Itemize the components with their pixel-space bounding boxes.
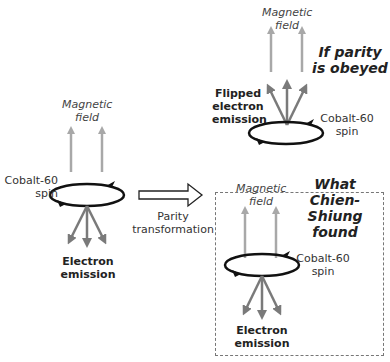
chien-shiung-found-title: What Chien-Shiung found [290, 176, 380, 240]
bottom-field-label: Magnetic field [236, 182, 286, 208]
top-magnetic-field-arrows [271, 30, 302, 72]
left-field-label: Magnetic field [62, 98, 112, 124]
bottom-spin-label: Cobalt-60 spin [294, 252, 352, 278]
left-magnetic-field-arrows [71, 130, 102, 172]
left-spin-label: Cobalt-60 spin [4, 174, 58, 200]
top-spin-label: Cobalt-60 spin [318, 112, 376, 138]
left-spin-ring [50, 181, 124, 207]
top-field-label: Magnetic field [262, 6, 312, 32]
top-flipped-emission-arrows [269, 84, 305, 125]
bottom-emission-label: Electron emission [234, 324, 290, 350]
parity-transform-arrow [139, 184, 202, 206]
flipped-emission-label: Flipped electron emission [212, 87, 264, 126]
left-electron-emission-arrows [70, 206, 104, 243]
left-emission-label: Electron emission [60, 255, 116, 281]
if-parity-obeyed-title: If parity is obeyed [310, 44, 390, 76]
parity-transformation-label: Parity transformation [123, 210, 223, 236]
